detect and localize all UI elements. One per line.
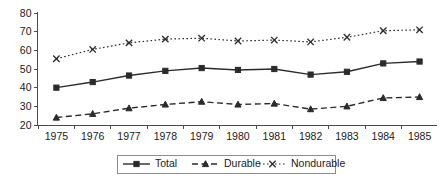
y-axis-tick-label: 60 [20,44,32,56]
y-axis-tick-label: 50 [20,63,32,75]
chart-legend: TotalDurableNondurable [117,155,345,173]
y-axis-tick-label: 70 [20,25,32,37]
x-axis-tick-label: 1979 [190,130,214,142]
y-axis-tick-label: 20 [20,119,32,131]
series-total-point-square-marker [235,67,240,72]
y-axis-tick-label: 80 [20,7,32,19]
series-durable-point-triangle-marker [380,95,386,101]
series-nondurable [53,27,423,62]
x-axis-tick-label: 1983 [335,130,359,142]
x-axis-tick-label: 1978 [154,130,178,142]
x-axis-tick-label: 1976 [81,130,105,142]
series-total-point-square-marker [344,69,349,74]
series-total-point-square-marker [163,68,168,73]
series-total-point-square-marker [417,59,422,64]
series-total-point-square-marker [308,72,313,77]
legend-label-total: Total [155,157,177,169]
legend-total-square-marker [134,161,139,166]
series-nondurable-point-x-marker [344,34,350,40]
series-nondurable-point-x-marker [271,37,277,43]
x-axis-tick-label: 1980 [226,130,250,142]
x-axis-tick-label: 1985 [408,130,432,142]
series-nondurable-point-x-marker [90,46,96,52]
series-total-point-square-marker [90,79,95,84]
x-axis-tick-label: 1977 [117,130,141,142]
legend-label-nondurable: Nondurable [291,157,345,169]
series-line-total [56,62,419,88]
chart-container: 2030405060708019751976197719781979198019… [0,0,446,180]
x-axis-tick-label: 1982 [299,130,323,142]
series-nondurable-point-x-marker [307,39,313,45]
legend-label-durable: Durable [224,157,261,169]
series-total-point-square-marker [199,65,204,70]
series-total-point-square-marker [54,85,59,90]
y-axis-tick-label: 40 [20,81,32,93]
line-chart: 2030405060708019751976197719781979198019… [0,0,446,180]
series-nondurable-point-x-marker [416,27,422,33]
series-total-point-square-marker [272,66,277,71]
series-total-point-square-marker [381,61,386,66]
x-axis-tick-label: 1975 [45,130,69,142]
x-axis-tick-label: 1984 [372,130,396,142]
x-axis-tick-label: 1981 [263,130,287,142]
series-nondurable-point-x-marker [53,56,59,62]
series-total [54,59,422,90]
series-durable [53,94,422,120]
series-total-point-square-marker [126,73,131,78]
y-axis-tick-label: 30 [20,100,32,112]
series-line-nondurable [56,30,419,59]
